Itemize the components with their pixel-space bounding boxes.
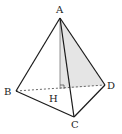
label-b: B <box>4 86 11 97</box>
label-a: A <box>55 4 64 15</box>
edge-bc <box>16 91 74 117</box>
label-h: H <box>49 93 58 104</box>
tetrahedron-diagram: A B C D H <box>0 0 122 134</box>
label-c: C <box>71 119 79 130</box>
label-d: D <box>107 80 115 91</box>
edge-cd <box>74 85 105 117</box>
edge-ab <box>16 18 60 91</box>
